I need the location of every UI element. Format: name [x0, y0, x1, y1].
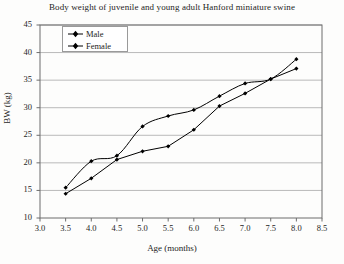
series-layer	[64, 57, 299, 196]
female-marker-icon	[67, 41, 84, 51]
x-tick-label: 8.5	[307, 223, 337, 233]
legend-label-male: Male	[86, 29, 103, 39]
y-tick-label: 40	[6, 47, 32, 57]
y-tick-label: 20	[6, 157, 32, 167]
data-point	[294, 66, 298, 70]
x-tick-marks	[40, 218, 322, 222]
legend: Male Female	[62, 26, 128, 52]
data-point	[140, 149, 144, 153]
legend-item-male: Male	[67, 28, 127, 40]
data-point	[243, 81, 247, 85]
y-tick-label: 10	[6, 212, 32, 222]
data-point	[243, 91, 247, 95]
plot-frame	[40, 25, 322, 218]
legend-label-female: Female	[86, 41, 111, 51]
male-marker-icon	[67, 29, 84, 39]
chart-container: Body weight of juvenile and young adult …	[0, 0, 344, 264]
data-point	[166, 114, 170, 118]
y-tick-label: 35	[6, 74, 32, 84]
y-tick-label: 15	[6, 184, 32, 194]
data-point	[192, 108, 196, 112]
data-point	[217, 94, 221, 98]
series-female	[64, 66, 299, 195]
y-tick-marks	[37, 25, 41, 218]
y-tick-label: 45	[6, 19, 32, 29]
y-tick-label: 25	[6, 129, 32, 139]
series-male	[64, 57, 299, 190]
legend-item-female: Female	[67, 40, 127, 52]
data-point	[64, 192, 68, 196]
y-tick-label: 30	[6, 102, 32, 112]
